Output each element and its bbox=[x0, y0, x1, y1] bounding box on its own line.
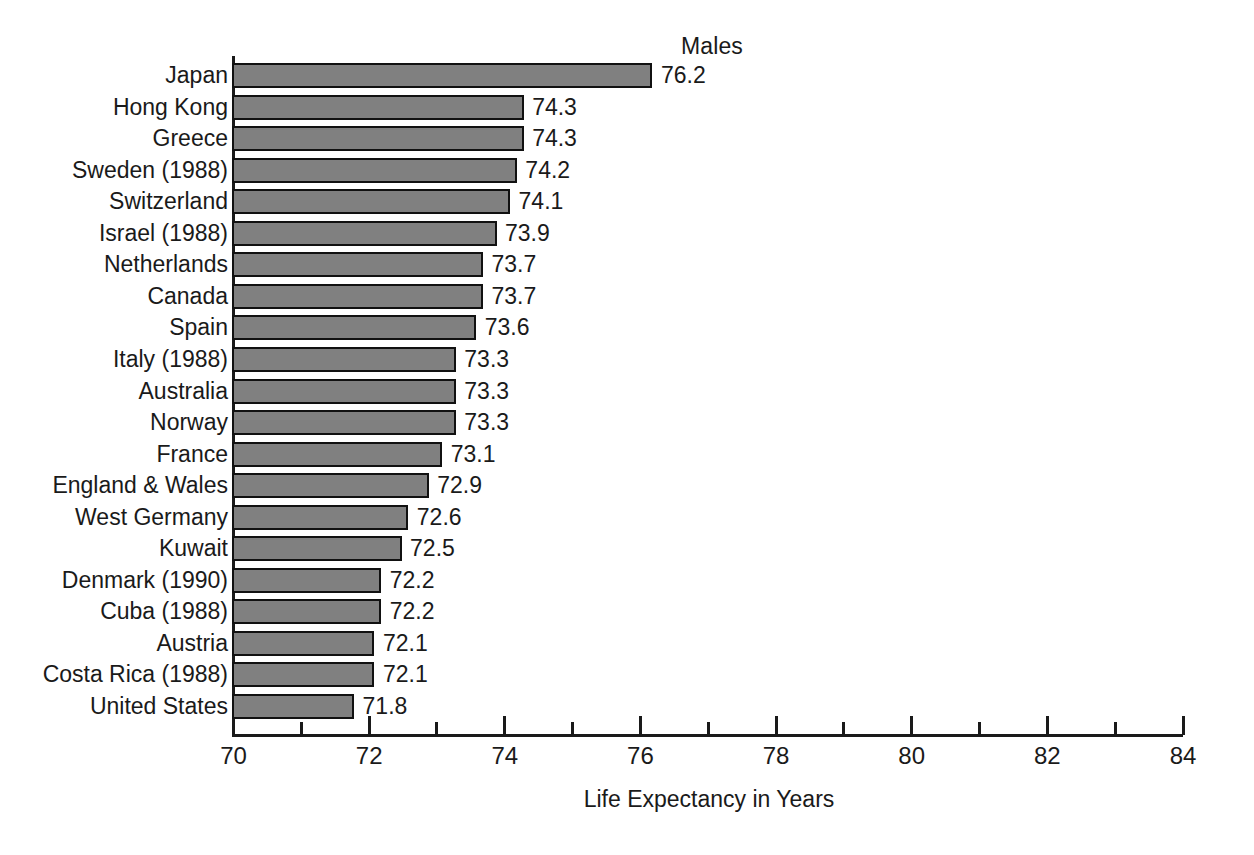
bar-row: England & Wales72.9 bbox=[0, 473, 1254, 505]
bar-row: Japan76.2 bbox=[0, 63, 1254, 95]
bar-row: Sweden (1988)74.2 bbox=[0, 158, 1254, 190]
bar[interactable] bbox=[232, 536, 402, 561]
x-axis-tick-label: 80 bbox=[872, 742, 952, 770]
bar-value-label: 73.1 bbox=[451, 442, 496, 467]
bar[interactable] bbox=[232, 568, 381, 593]
bar[interactable] bbox=[232, 252, 483, 277]
category-label: Greece bbox=[0, 126, 228, 151]
category-label: Australia bbox=[0, 379, 228, 404]
bar[interactable] bbox=[232, 284, 483, 309]
category-label: France bbox=[0, 442, 228, 467]
x-axis-title: Life Expectancy in Years bbox=[509, 786, 909, 813]
bar-value-label: 73.6 bbox=[485, 315, 530, 340]
bar-row: Norway73.3 bbox=[0, 410, 1254, 442]
category-label: Canada bbox=[0, 284, 228, 309]
category-label: Norway bbox=[0, 410, 228, 435]
bar[interactable] bbox=[232, 221, 497, 246]
bar-row: United States71.8 bbox=[0, 694, 1254, 726]
bar-row: Israel (1988)73.9 bbox=[0, 221, 1254, 253]
bar-row: Italy (1988)73.3 bbox=[0, 347, 1254, 379]
bar[interactable] bbox=[232, 347, 456, 372]
bar-value-label: 73.9 bbox=[505, 221, 550, 246]
bar[interactable] bbox=[232, 189, 510, 214]
category-label: England & Wales bbox=[0, 473, 228, 498]
bar-value-label: 71.8 bbox=[363, 694, 408, 719]
category-label: Netherlands bbox=[0, 252, 228, 277]
bar-row: Denmark (1990)72.2 bbox=[0, 568, 1254, 600]
category-label: Denmark (1990) bbox=[0, 568, 228, 593]
bar-row: Netherlands73.7 bbox=[0, 252, 1254, 284]
bar[interactable] bbox=[232, 63, 652, 88]
x-axis-tick-label: 78 bbox=[736, 742, 816, 770]
bar[interactable] bbox=[232, 379, 456, 404]
bar-value-label: 73.7 bbox=[491, 284, 536, 309]
category-label: Spain bbox=[0, 315, 228, 340]
bar-row: Austria72.1 bbox=[0, 631, 1254, 663]
bar[interactable] bbox=[232, 126, 524, 151]
bar-value-label: 74.3 bbox=[532, 126, 577, 151]
category-label: Kuwait bbox=[0, 536, 228, 561]
bar[interactable] bbox=[232, 410, 456, 435]
x-axis-tick-label: 84 bbox=[1143, 742, 1223, 770]
bar[interactable] bbox=[232, 158, 517, 183]
category-label: Switzerland bbox=[0, 189, 228, 214]
bar-value-label: 74.3 bbox=[532, 95, 577, 120]
x-axis-tick-label: 82 bbox=[1007, 742, 1087, 770]
bar[interactable] bbox=[232, 662, 374, 687]
category-label: Hong Kong bbox=[0, 95, 228, 120]
bar-value-label: 72.6 bbox=[417, 505, 462, 530]
bar[interactable] bbox=[232, 631, 374, 656]
bar-row: Costa Rica (1988)72.1 bbox=[0, 662, 1254, 694]
x-axis-tick-label: 72 bbox=[329, 742, 409, 770]
bar-value-label: 73.3 bbox=[464, 347, 509, 372]
bar-row: Hong Kong74.3 bbox=[0, 95, 1254, 127]
bar-value-label: 74.2 bbox=[525, 158, 570, 183]
category-label: Cuba (1988) bbox=[0, 599, 228, 624]
x-axis-tick-label: 74 bbox=[465, 742, 545, 770]
bar-row: Greece74.3 bbox=[0, 126, 1254, 158]
bar-row: Switzerland74.1 bbox=[0, 189, 1254, 221]
category-label: Israel (1988) bbox=[0, 221, 228, 246]
bar[interactable] bbox=[232, 505, 408, 530]
bar-row: Kuwait72.5 bbox=[0, 536, 1254, 568]
category-label: Italy (1988) bbox=[0, 347, 228, 372]
bar-row: Canada73.7 bbox=[0, 284, 1254, 316]
category-label: West Germany bbox=[0, 505, 228, 530]
bar-value-label: 72.2 bbox=[390, 568, 435, 593]
bar[interactable] bbox=[232, 694, 354, 719]
bar-value-label: 74.1 bbox=[519, 189, 564, 214]
bar-row: Australia73.3 bbox=[0, 379, 1254, 411]
x-axis-tick-label: 70 bbox=[194, 742, 274, 770]
bar-chart: Males 7072747678808284 Life Expectancy i… bbox=[0, 0, 1254, 855]
category-label: Japan bbox=[0, 63, 228, 88]
bar-value-label: 72.1 bbox=[383, 631, 428, 656]
bar-value-label: 73.7 bbox=[491, 252, 536, 277]
bar[interactable] bbox=[232, 315, 476, 340]
bar-row: West Germany72.6 bbox=[0, 505, 1254, 537]
bar-value-label: 73.3 bbox=[464, 410, 509, 435]
bar[interactable] bbox=[232, 473, 429, 498]
category-label: Austria bbox=[0, 631, 228, 656]
category-label: Costa Rica (1988) bbox=[0, 662, 228, 687]
category-label: Sweden (1988) bbox=[0, 158, 228, 183]
bar-value-label: 72.5 bbox=[410, 536, 455, 561]
bar-value-label: 72.9 bbox=[437, 473, 482, 498]
bar-row: Cuba (1988)72.2 bbox=[0, 599, 1254, 631]
bar[interactable] bbox=[232, 442, 442, 467]
category-label: United States bbox=[0, 694, 228, 719]
bar-row: Spain73.6 bbox=[0, 315, 1254, 347]
bar[interactable] bbox=[232, 599, 381, 624]
bar-value-label: 72.1 bbox=[383, 662, 428, 687]
x-axis-tick-label: 76 bbox=[600, 742, 680, 770]
bar-row: France73.1 bbox=[0, 442, 1254, 474]
bar[interactable] bbox=[232, 95, 524, 120]
bar-value-label: 73.3 bbox=[464, 379, 509, 404]
bar-value-label: 76.2 bbox=[661, 63, 706, 88]
bar-value-label: 72.2 bbox=[390, 599, 435, 624]
